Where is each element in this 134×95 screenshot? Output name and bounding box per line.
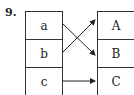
mapping-arrows	[0, 0, 134, 95]
arrow-b-to-A	[62, 20, 95, 53]
arrow-a-to-B	[62, 23, 95, 55]
